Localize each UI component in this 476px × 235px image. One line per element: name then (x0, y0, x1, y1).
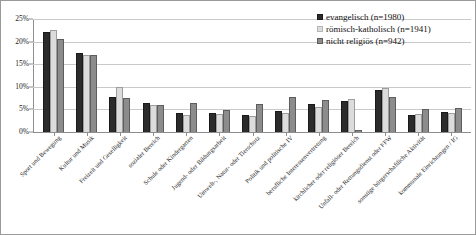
bar (123, 98, 130, 132)
bar (256, 104, 263, 132)
bar-chart-figure: 25%20%15%10%5%0% Sport und BewegungKultu… (0, 0, 476, 235)
chart-legend: evangelisch (n=1980)römisch-katholisch (… (317, 12, 431, 46)
bar (341, 101, 348, 132)
bar-group (103, 19, 136, 132)
bar-group (136, 19, 169, 132)
x-axis-category-labels: Sport und BewegungKultur und MusikFreize… (33, 134, 471, 234)
bar-group (269, 19, 302, 132)
bar (143, 103, 150, 132)
y-axis-tick-label: 25% (15, 15, 29, 23)
y-axis-tick-label: 0% (19, 128, 29, 136)
bar (448, 113, 455, 132)
bar-group (37, 19, 70, 132)
bar (216, 114, 223, 132)
bar-group (203, 19, 236, 132)
bar (441, 112, 448, 132)
legend-item: römisch-katholisch (n=1941) (317, 24, 431, 34)
bar (209, 113, 216, 132)
x-axis-label: kirchlicher oder religiöser Bereich (292, 134, 360, 202)
bar (176, 113, 183, 132)
bar (389, 97, 396, 132)
y-axis-tick-label: 5% (19, 105, 29, 113)
bar (315, 107, 322, 132)
x-axis-label: Umwelt-, Natur- oder Tierschutz (195, 134, 260, 199)
bar (109, 97, 116, 132)
bar (43, 32, 50, 132)
x-axis-label: sozialer Bereich (126, 134, 161, 169)
bar (422, 109, 429, 132)
bar (375, 90, 382, 132)
y-axis-tick-label: 10% (15, 83, 29, 91)
bar (249, 116, 256, 132)
bar (150, 105, 157, 132)
bar (57, 39, 64, 132)
legend-label: nicht religiös (n=942) (326, 36, 405, 46)
legend-label: evangelisch (n=1980) (326, 12, 404, 22)
bar (382, 88, 389, 132)
bar (242, 115, 249, 132)
bar (50, 30, 57, 132)
legend-swatch-icon (317, 26, 323, 32)
legend-swatch-icon (317, 38, 323, 44)
bar (282, 113, 289, 132)
bar (157, 105, 164, 132)
bar (116, 87, 123, 132)
bar (348, 99, 355, 132)
y-axis: 25%20%15%10%5%0% (1, 19, 31, 132)
bar-group (70, 19, 103, 132)
bar (455, 108, 462, 132)
legend-item: nicht religiös (n=942) (317, 36, 431, 46)
bar (289, 97, 296, 132)
x-axis-label: Sport und Bewegung (18, 134, 62, 178)
bar (275, 111, 282, 132)
legend-item: evangelisch (n=1980) (317, 12, 431, 22)
legend-swatch-icon (317, 14, 323, 20)
bar (408, 115, 415, 132)
bar (308, 104, 315, 132)
legend-label: römisch-katholisch (n=1941) (326, 24, 431, 34)
x-axis-label: sonstige bürgerschaftliche Aktivität (356, 134, 426, 204)
bar (190, 103, 197, 132)
x-axis-label: berufliche Interessenvertretung (264, 134, 326, 196)
y-axis-tick-label: 15% (15, 60, 29, 68)
bar (322, 100, 329, 132)
bar-group (170, 19, 203, 132)
bar-group (435, 19, 468, 132)
y-axis-tick-label: 20% (15, 38, 29, 46)
bar (76, 53, 83, 132)
bar (90, 55, 97, 132)
bar (183, 115, 190, 132)
bar-group (236, 19, 269, 132)
bar (223, 110, 230, 132)
x-axis-label: kommunale Einrichtungen / IG (397, 134, 459, 196)
bar (415, 114, 422, 132)
bar (83, 55, 90, 132)
